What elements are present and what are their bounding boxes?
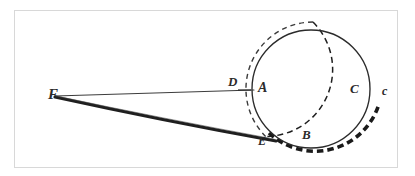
figure-page: F D A C c B E (0, 0, 415, 176)
line-f-to-e-highlight (56, 96, 274, 139)
point-label-e: E (258, 135, 266, 147)
point-label-c-upper: C (350, 82, 359, 95)
dashed-outer-circle-thick-arc (266, 22, 333, 136)
line-f-to-e-thick (55, 97, 276, 141)
line-f-to-a (55, 90, 254, 96)
point-label-d: D (228, 75, 237, 88)
point-label-a: A (258, 81, 267, 95)
dashed-outer-circle-bold-bottom (269, 104, 379, 151)
point-label-b: B (302, 128, 311, 141)
point-label-c-lower: c (382, 85, 387, 97)
point-label-f: F (48, 87, 58, 102)
